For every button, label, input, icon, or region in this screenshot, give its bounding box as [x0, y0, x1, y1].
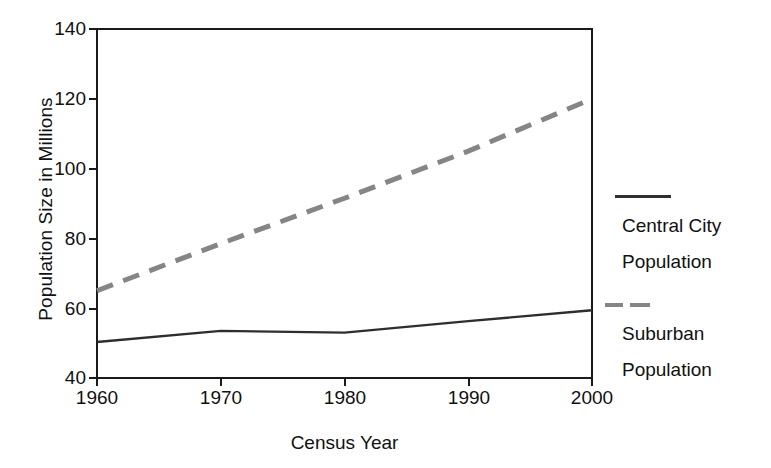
y-tick-marks [89, 29, 97, 378]
chart-figure: Population Size in Millions 140 120 100 … [0, 0, 771, 468]
legend-label-line2: Population [622, 352, 771, 388]
legend-label-line1: Suburban [622, 316, 771, 352]
x-axis-title: Census Year [97, 432, 592, 454]
series-line-suburban [97, 99, 592, 291]
legend-label-line2: Population [622, 244, 771, 280]
legend-entry-suburban: Suburban Population [600, 294, 771, 388]
legend-label-line1: Central City [622, 208, 771, 244]
x-tick-marks [97, 378, 592, 386]
dashed-line-swatch-icon [605, 303, 650, 307]
legend-label-central-city: Central City Population [600, 186, 771, 280]
legend-entry-central-city: Central City Population [600, 186, 771, 280]
legend-label-suburban: Suburban Population [600, 294, 771, 388]
axis-frame [97, 29, 592, 378]
solid-line-swatch-icon [615, 195, 671, 198]
series-line-central-city [97, 310, 592, 342]
chart-legend: Central City Population Suburban Populat… [600, 186, 771, 398]
